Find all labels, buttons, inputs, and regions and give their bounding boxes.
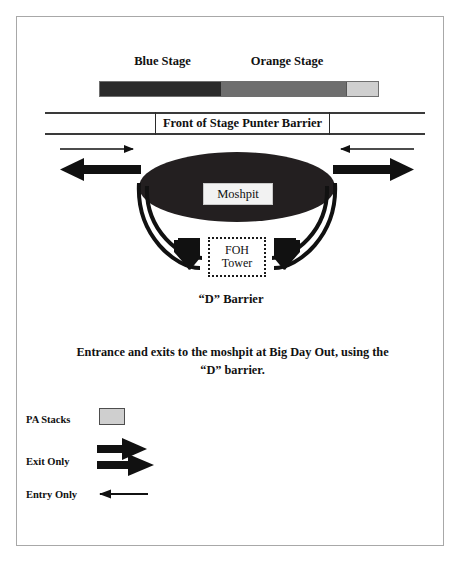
legend-exit-arrow-upper bbox=[97, 438, 147, 460]
legend-arrow-symbols bbox=[0, 0, 462, 570]
diagram-page: Blue Stage Orange Stage Front of Stage P… bbox=[0, 0, 462, 570]
legend-exit-arrow-lower bbox=[97, 454, 154, 476]
legend-label-exit-only: Exit Only bbox=[26, 456, 69, 467]
legend-label-pa-stacks: PA Stacks bbox=[26, 414, 70, 425]
legend-label-entry-only: Entry Only bbox=[26, 489, 77, 500]
legend-swatch-pa-stacks bbox=[99, 408, 125, 425]
legend: PA Stacks Exit Only Entry Only bbox=[0, 0, 462, 570]
